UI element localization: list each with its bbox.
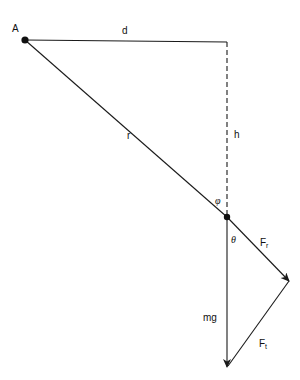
label-fr: Fr	[260, 238, 268, 249]
pivot-dot	[224, 214, 230, 220]
label-phi: φ	[215, 196, 221, 206]
arrow-fr	[227, 217, 289, 281]
segment-d	[25, 40, 227, 42]
label-h: h	[234, 130, 240, 140]
label-theta: θ	[231, 235, 236, 245]
force-diagram	[0, 0, 300, 380]
label-fr-sub: r	[266, 242, 268, 249]
arrow-ft	[228, 281, 289, 366]
segment-r	[25, 40, 227, 217]
label-a: A	[12, 24, 19, 34]
label-r: r	[127, 131, 130, 141]
label-ft-sub: t	[265, 343, 267, 350]
point-a-dot	[21, 36, 28, 43]
label-ft: Ft	[259, 339, 267, 350]
label-mg: mg	[203, 313, 217, 323]
label-d: d	[122, 26, 128, 36]
